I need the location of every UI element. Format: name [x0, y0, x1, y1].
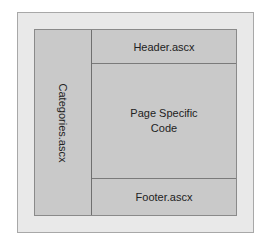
- header-control: Header.ascx: [92, 30, 236, 64]
- layout-container: Categories.ascx Header.ascx Page Specifi…: [34, 29, 237, 216]
- page-specific-code-region: Page Specific Code: [92, 64, 236, 178]
- content-label-line2: Code: [130, 121, 197, 136]
- categories-label: Categories.ascx: [57, 83, 69, 162]
- categories-control: Categories.ascx: [35, 30, 92, 215]
- footer-control: Footer.ascx: [92, 178, 236, 215]
- footer-label: Footer.ascx: [136, 191, 193, 203]
- content-label-line1: Page Specific: [130, 106, 197, 121]
- header-label: Header.ascx: [133, 41, 194, 53]
